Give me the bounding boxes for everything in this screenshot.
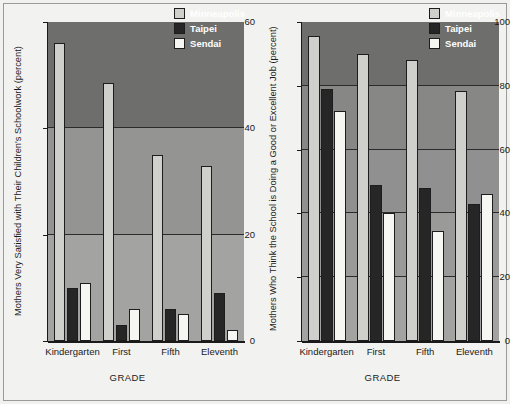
plot-area-left — [48, 22, 244, 341]
bar-minneapolis-kindergarten — [54, 43, 66, 341]
legend-label-sendai: Sendai — [190, 38, 221, 49]
y-tick-mark — [43, 128, 48, 129]
legend-swatch-sendai — [174, 38, 185, 49]
y-tick-mark — [297, 213, 302, 214]
bar-taipei-eleventh — [214, 293, 226, 341]
bar-taipei-first — [370, 185, 382, 341]
y-tick-label: 80 — [468, 80, 510, 91]
bar-minneapolis-kindergarten — [308, 36, 320, 341]
bar-sendai-fifth — [432, 231, 444, 341]
y-axis-title-right: Mothers Who Think the School is Doing a … — [268, 31, 278, 331]
bar-sendai-fifth — [178, 314, 190, 341]
y-tick-mark — [297, 341, 302, 342]
bar-minneapolis-eleventh — [201, 166, 213, 341]
chart-panel-right: 020406080100 KindergartenFirstFifthEleve… — [255, 0, 510, 404]
legend-swatch-minneapolis — [174, 8, 185, 19]
y-tick-label: 40 — [468, 207, 510, 218]
bar-sendai-kindergarten — [334, 111, 346, 341]
legend-item-sendai: Sendai — [429, 37, 500, 50]
y-tick-label: 0 — [468, 335, 510, 346]
legend-label-minneapolis: Minneapolis — [445, 8, 500, 19]
y-tick-mark — [43, 235, 48, 236]
y-tick-mark — [297, 86, 302, 87]
background-band — [48, 128, 244, 234]
y-tick-label: 20 — [211, 229, 255, 240]
y-tick-label: 20 — [468, 271, 510, 282]
legend-label-taipei: Taipei — [445, 23, 472, 34]
bar-taipei-fifth — [165, 309, 177, 341]
legend-left: MinneapolisTaipeiSendai — [171, 5, 248, 54]
bar-taipei-fifth — [419, 188, 431, 341]
y-tick-mark — [297, 22, 302, 23]
legend-swatch-minneapolis — [429, 8, 440, 19]
legend-item-taipei: Taipei — [174, 22, 245, 35]
legend-swatch-taipei — [174, 23, 185, 34]
legend-item-sendai: Sendai — [174, 37, 245, 50]
legend-label-sendai: Sendai — [445, 38, 476, 49]
y-axis-left — [47, 22, 48, 342]
bar-sendai-first — [129, 309, 141, 341]
x-category-label: Eleventh — [175, 346, 265, 357]
y-tick-label: 60 — [468, 144, 510, 155]
legend-swatch-taipei — [429, 23, 440, 34]
y-tick-mark — [43, 22, 48, 23]
bar-taipei-first — [116, 325, 128, 341]
y-tick-mark — [297, 277, 302, 278]
y-tick-label: 40 — [211, 122, 255, 133]
legend-item-minneapolis: Minneapolis — [429, 7, 500, 20]
y-tick-mark — [43, 341, 48, 342]
bar-minneapolis-fifth — [152, 155, 164, 341]
bar-minneapolis-first — [103, 83, 115, 341]
y-axis-title-left: Mothers Very Satisfied with Their Childr… — [13, 31, 23, 331]
plot-area-right — [302, 22, 499, 341]
y-axis-right — [301, 22, 302, 342]
legend-label-minneapolis: Minneapolis — [190, 8, 245, 19]
bar-minneapolis-eleventh — [455, 91, 467, 341]
bar-taipei-kindergarten — [67, 288, 79, 341]
chart-panel-left: 0204060 KindergartenFirstFifthEleventh G… — [0, 0, 255, 404]
legend-right: MinneapolisTaipeiSendai — [426, 5, 503, 54]
x-axis-title-left: GRADE — [0, 372, 255, 383]
bar-sendai-kindergarten — [80, 283, 92, 341]
legend-item-taipei: Taipei — [429, 22, 500, 35]
x-category-label: Eleventh — [429, 346, 515, 357]
x-axis-title-right: GRADE — [255, 372, 510, 383]
bar-taipei-kindergarten — [321, 89, 333, 341]
bar-minneapolis-fifth — [406, 60, 418, 341]
y-tick-mark — [297, 150, 302, 151]
legend-item-minneapolis: Minneapolis — [174, 7, 245, 20]
bar-minneapolis-first — [357, 54, 369, 341]
legend-label-taipei: Taipei — [190, 23, 217, 34]
legend-swatch-sendai — [429, 38, 440, 49]
y-tick-label: 0 — [211, 335, 255, 346]
bar-sendai-first — [383, 213, 395, 341]
